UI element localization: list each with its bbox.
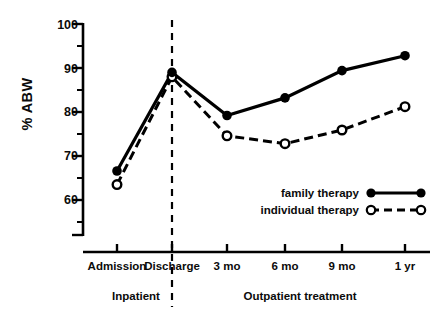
data-point-individual-therapy-3-mo [223, 132, 232, 141]
data-point-individual-therapy-Admission [113, 180, 122, 189]
y-axis-major-ticks [72, 24, 83, 200]
data-point-family-therapy-Admission [112, 166, 122, 176]
data-point-individual-therapy-9-mo [338, 126, 347, 135]
data-point-family-therapy-6-mo [280, 93, 290, 103]
data-point-family-therapy-9-mo [337, 66, 347, 76]
series-line-family-therapy [117, 56, 405, 171]
data-point-individual-therapy-1-yr [401, 102, 410, 111]
series-markers-individual-therapy [113, 73, 410, 189]
plot-area [0, 0, 441, 332]
data-point-family-therapy-Discharge [167, 68, 177, 78]
data-point-family-therapy-3-mo [222, 111, 232, 121]
chart-figure: % ABW 100 90 80 70 60 Admission Discharg… [0, 0, 441, 332]
series-markers-family-therapy [112, 51, 410, 176]
data-point-individual-therapy-6-mo [281, 139, 290, 148]
data-point-family-therapy-1-yr [400, 51, 410, 61]
